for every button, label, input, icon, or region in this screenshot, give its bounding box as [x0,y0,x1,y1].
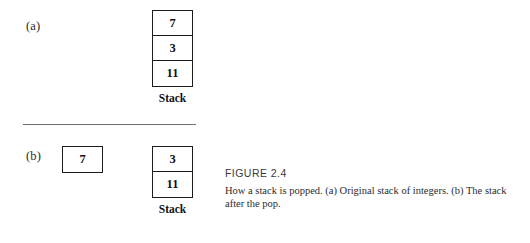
stack-a-cell-middle: 3 [153,36,192,61]
stack-a-cell-bottom: 11 [153,61,192,86]
stack-b-cell-bottom: 11 [153,172,192,197]
stack-b-caption: Stack [152,203,193,215]
stack-a-caption: Stack [152,92,193,104]
panel-label-a: (a) [26,19,40,34]
stack-a-cell-top: 7 [153,11,192,36]
stack-b-cell-top: 3 [153,147,192,172]
figure-caption-text: How a stack is popped. (a) Original stac… [225,185,517,210]
panel-label-b: (b) [26,149,41,164]
figure-caption-line-2: after the pop. [225,198,517,211]
stack-a: 7 3 11 [152,10,193,87]
panel-divider [23,124,196,125]
figure-2-4: (a) 7 3 11 Stack (b) 7 3 11 Stack FIGURE… [0,0,530,243]
figure-caption-line-1: How a stack is popped. (a) Original stac… [225,185,517,198]
figure-caption-block: FIGURE 2.4 How a stack is popped. (a) Or… [225,167,525,210]
stack-b: 3 11 [152,146,193,198]
popped-element-box: 7 [62,146,103,173]
figure-number-label: FIGURE 2.4 [225,167,525,180]
